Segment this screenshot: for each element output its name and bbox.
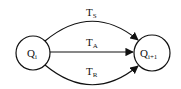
edge-t-a-label: TA [86, 36, 98, 50]
edge-t-a: TA [50, 36, 133, 52]
state-transition-diagram: Qi Qi+1 TS TA TR [0, 0, 181, 89]
node-q-i: Qi [16, 36, 50, 70]
edge-t-r-label: TR [86, 65, 98, 79]
edge-t-r: TR [45, 65, 138, 85]
node-q-i-plus-1: Qi+1 [134, 35, 170, 71]
edge-t-s-label: TS [86, 6, 97, 20]
